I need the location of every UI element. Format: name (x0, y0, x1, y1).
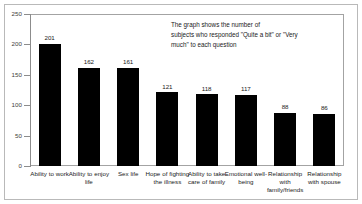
y-axis-tick-label: 0 (0, 163, 22, 169)
bar-slot: 162 (69, 14, 108, 166)
bar[interactable] (156, 92, 178, 166)
bar-value-label: 118 (202, 86, 212, 92)
bar-value-label: 162 (84, 59, 94, 65)
bar[interactable] (39, 44, 61, 166)
y-axis-tick-label: 100 (0, 102, 22, 108)
bar[interactable] (235, 95, 257, 166)
x-axis-category-label: Relationship with spouse (302, 170, 347, 186)
bar[interactable] (313, 114, 335, 166)
y-axis-tick (24, 166, 31, 167)
y-axis-tick-label: 50 (0, 132, 22, 138)
y-axis-tick-label: 250 (0, 11, 22, 17)
bar-value-label: 121 (162, 84, 172, 90)
bar-value-label: 201 (44, 35, 54, 41)
y-axis-tick-label: 150 (0, 72, 22, 78)
bar[interactable] (78, 68, 100, 166)
x-axis-labels: Ability to workAbility to enjoy lifeSex … (30, 170, 344, 204)
bar[interactable] (117, 68, 139, 166)
bar[interactable] (196, 94, 218, 166)
bar-slot: 161 (109, 14, 148, 166)
bar-value-label: 86 (321, 105, 328, 111)
bar-slot: 201 (30, 14, 69, 166)
bar-value-label: 117 (241, 86, 251, 92)
bar-chart-figure: 050100150200250 2011621611211181178886 A… (0, 0, 362, 204)
bar[interactable] (274, 113, 296, 167)
bar-value-label: 161 (123, 59, 133, 65)
y-axis-tick-label: 200 (0, 41, 22, 47)
bar-value-label: 88 (282, 104, 289, 110)
chart-annotation: The graph shows the number of subjects w… (171, 20, 346, 51)
